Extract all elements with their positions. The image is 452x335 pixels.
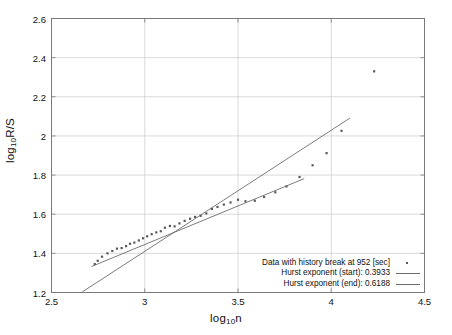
y-tick-label: 1.4 — [22, 248, 46, 259]
chart-legend: Data with history break at 952 [sec]Hurs… — [262, 258, 420, 289]
data-point — [169, 225, 171, 227]
legend-item: Hurst exponent (start): 0.3933 — [262, 268, 420, 278]
y-axis-label-main: log — [4, 147, 16, 163]
data-point — [254, 200, 256, 202]
y-tick-label: 2 — [22, 130, 46, 141]
data-point — [173, 225, 175, 227]
legend-item-label: Hurst exponent (start): 0.3933 — [281, 268, 390, 278]
data-point — [205, 212, 207, 214]
data-point — [244, 200, 246, 202]
y-axis-label-tail: R/S — [4, 118, 16, 138]
x-tick-label: 4 — [329, 296, 334, 307]
y-tick-label: 1.2 — [22, 287, 46, 298]
data-point — [155, 231, 157, 233]
data-point — [101, 256, 103, 258]
data-point — [129, 243, 131, 245]
data-point — [223, 204, 225, 206]
data-point — [151, 233, 153, 235]
legend-marker-swatch — [396, 258, 420, 268]
x-tick-label: 3 — [142, 296, 147, 307]
data-point — [325, 152, 327, 154]
data-point — [125, 245, 127, 247]
x-tick-label: 2.5 — [45, 296, 58, 307]
x-axis-label-sub: 10 — [226, 317, 235, 326]
data-point — [298, 176, 300, 178]
scatter-series — [94, 70, 376, 265]
y-tick-label: 2.4 — [22, 52, 46, 63]
x-axis-label: log10n — [0, 312, 452, 326]
data-point — [138, 239, 140, 241]
data-point — [142, 237, 144, 239]
legend-line-swatch — [396, 268, 420, 278]
y-axis-label: log10R/S — [4, 118, 18, 163]
data-point — [116, 248, 118, 250]
data-point — [160, 230, 162, 232]
data-point — [184, 220, 186, 222]
x-axis-label-tail: n — [235, 312, 242, 324]
legend-line-swatch — [396, 279, 420, 289]
data-point — [189, 218, 191, 220]
legend-item-label: Data with history break at 952 [sec] — [262, 258, 390, 268]
chart-figure: log10R/S log10n 2.533.544.5 1.21.41.61.8… — [0, 0, 452, 335]
data-point — [106, 252, 108, 254]
data-point — [146, 235, 148, 237]
data-point — [97, 260, 99, 262]
data-point — [216, 206, 218, 208]
y-axis-label-sub: 10 — [9, 138, 18, 147]
data-point — [263, 196, 265, 198]
x-axis-label-main: log — [210, 312, 226, 324]
legend-item-label: Hurst exponent (end): 0.6188 — [283, 279, 390, 289]
x-tick-label: 4.5 — [418, 296, 431, 307]
x-tick-label: 3.5 — [231, 296, 244, 307]
data-point — [133, 241, 135, 243]
data-point — [237, 199, 239, 201]
y-tick-label: 1.8 — [22, 170, 46, 181]
y-tick-label: 2.2 — [22, 91, 46, 102]
data-point — [178, 222, 180, 224]
data-point — [373, 70, 375, 72]
data-point — [274, 191, 276, 193]
data-point — [229, 201, 231, 203]
data-point — [121, 247, 123, 249]
data-point — [340, 130, 342, 132]
data-point — [111, 250, 113, 252]
y-tick-label: 2.6 — [22, 13, 46, 24]
legend-item: Hurst exponent (end): 0.6188 — [262, 279, 420, 289]
y-tick-label: 1.6 — [22, 209, 46, 220]
data-point — [164, 227, 166, 229]
legend-item: Data with history break at 952 [sec] — [262, 258, 420, 268]
data-point — [312, 164, 314, 166]
